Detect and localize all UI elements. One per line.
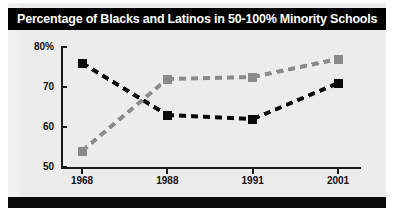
page-title: Percentage of Blacks and Latinos in 50-1… — [8, 12, 377, 26]
chart-screenshot: Percentage of Blacks and Latinos in 50-1… — [0, 0, 394, 212]
footer-bar — [8, 197, 386, 208]
chart-card — [8, 3, 386, 197]
chart-title-bar: Percentage of Blacks and Latinos in 50-1… — [8, 8, 386, 30]
